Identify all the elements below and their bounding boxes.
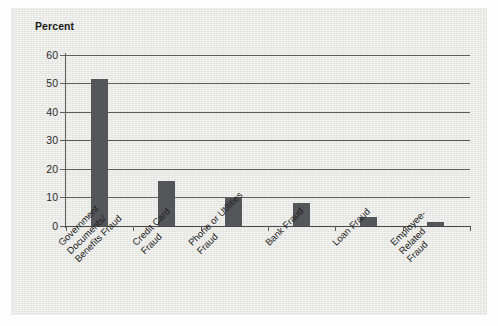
- x-label-phone-or-utilities-fraud: Phone or Utilities Fraud: [186, 189, 253, 256]
- x-label-line: Bank Fraud: [263, 205, 306, 248]
- bar-chart-figure: Percent 60 50 40 30 20 10 0: [0, 0, 498, 326]
- x-axis-category-labels: Government Documents/ Benefits Fraud Cre…: [0, 0, 498, 326]
- x-label-loan-fraud: Loan Fraud: [330, 206, 372, 248]
- x-label-employee-related-fraud: Employee- Related Fraud: [388, 208, 445, 265]
- x-label-credit-card-fraud: Credit Card Fraud: [130, 206, 181, 257]
- x-label-bank-fraud: Bank Fraud: [263, 205, 306, 248]
- x-label-line: Loan Fraud: [330, 206, 372, 248]
- x-label-government-documents-benefits-fraud: Government Documents/ Benefits Fraud: [56, 196, 124, 264]
